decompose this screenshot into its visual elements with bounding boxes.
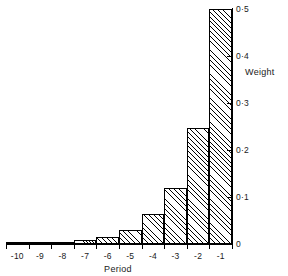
y-tick-label: 0·4	[236, 52, 249, 61]
x-tick-label: -1	[217, 252, 225, 261]
x-tick-mark	[51, 245, 52, 249]
histogram-chart: 00·10·20·30·40·5 -10-9-8-7-6-5-4-3-2-1 P…	[0, 0, 288, 276]
x-tick-label: -7	[81, 252, 89, 261]
x-axis-title: Period	[0, 265, 236, 274]
y-tick-mark	[227, 197, 232, 198]
bar-period--3	[164, 188, 187, 244]
y-tick-mark	[227, 56, 232, 57]
x-tick-mark	[209, 245, 210, 249]
y-tick-mark	[227, 103, 232, 104]
bar-period--1	[209, 9, 232, 244]
x-tick-label: -9	[36, 252, 44, 261]
x-tick-mark	[29, 245, 30, 249]
x-tick-mark	[119, 245, 120, 249]
bar-period--6	[96, 237, 119, 244]
y-tick-label: 0	[236, 240, 241, 249]
x-tick-label: -8	[59, 252, 67, 261]
bar-period--4	[142, 214, 165, 244]
x-tick-label: -6	[104, 252, 112, 261]
x-tick-label: -2	[194, 252, 202, 261]
x-tick-mark	[96, 245, 97, 249]
y-axis-title: Weight	[245, 68, 275, 77]
x-tick-mark	[187, 245, 188, 249]
bar-period--5	[119, 230, 142, 244]
y-tick-mark	[227, 9, 232, 10]
y-axis-line	[232, 8, 233, 245]
x-tick-mark	[74, 245, 75, 249]
y-tick-label: 0·2	[236, 146, 249, 155]
x-tick-label: -4	[149, 252, 157, 261]
y-tick-label: 0·5	[236, 5, 249, 14]
x-tick-mark	[6, 245, 7, 249]
x-tick-mark	[142, 245, 143, 249]
x-tick-mark	[164, 245, 165, 249]
y-tick-label: 0·1	[236, 193, 249, 202]
x-tick-label: -3	[172, 252, 180, 261]
x-tick-label: -10	[11, 252, 24, 261]
bar-period--2	[187, 128, 210, 244]
x-tick-label: -5	[126, 252, 134, 261]
y-tick-label: 0·3	[236, 99, 249, 108]
y-tick-mark	[227, 150, 232, 151]
plot-area	[6, 9, 232, 244]
x-tick-mark	[232, 245, 233, 249]
